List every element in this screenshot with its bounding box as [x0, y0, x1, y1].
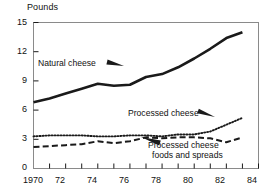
annotation-arrow: [197, 109, 215, 117]
annotation-arrow: [106, 60, 124, 66]
series-line-2: [34, 137, 243, 147]
plot-frame: [34, 23, 259, 169]
cheese-consumption-chart: Pounds 15 12 9 6 3 0 1970 72 74 76 78 80…: [0, 0, 270, 194]
axis-ticks: [34, 23, 259, 169]
series-line-1: [34, 118, 243, 136]
plot-canvas: [0, 0, 270, 194]
series-line-0: [34, 32, 243, 102]
series-lines: [34, 32, 243, 147]
annotation-arrows: [106, 60, 215, 146]
